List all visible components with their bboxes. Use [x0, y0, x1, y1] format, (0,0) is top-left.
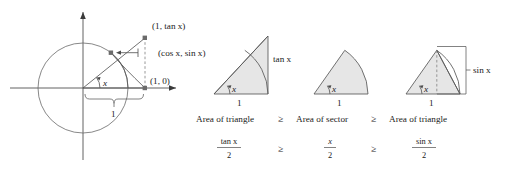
caption-sector: Area of sector: [296, 114, 348, 124]
triangle-tan-side-label: tan x: [273, 54, 292, 64]
unit-circle-diagram: (1, tan x) (cos x, sin x) (1, 0) x 1: [10, 12, 205, 160]
cos-sin-pointer: [116, 49, 138, 58]
triangle-sin-base-label: 1: [429, 98, 434, 108]
fraction-sin-denominator: 2: [422, 151, 426, 160]
relation-operator-2: ≥: [371, 114, 376, 124]
relation-operator-1: ≥: [278, 114, 283, 124]
point-unit: [143, 86, 147, 90]
angle-arc-large: [111, 53, 128, 88]
fraction-sin-numerator: sin x: [416, 137, 433, 146]
triangle-tan-base-label: 1: [237, 98, 242, 108]
fraction-tan: tan x 2: [217, 137, 241, 160]
figure-canvas: (1, tan x) (cos x, sin x) (1, 0) x 1 x 1…: [0, 0, 508, 172]
math-figure: (1, tan x) (cos x, sin x) (1, 0) x 1 x 1…: [0, 0, 508, 172]
fraction-tan-denominator: 2: [227, 151, 231, 160]
panel-triangle-tan: x 1 tan x: [214, 36, 292, 108]
x-axis-arrow-icon: [169, 85, 176, 91]
sector-base-label: 1: [337, 98, 342, 108]
y-axis-arrow-icon: [80, 12, 86, 19]
fraction-operator-1: ≥: [278, 144, 283, 154]
label-angle-x: x: [102, 78, 108, 88]
triangle-sin-side-label: sin x: [473, 65, 491, 75]
label-tan-point: (1, tan x): [152, 21, 185, 31]
sector-shape: [314, 50, 368, 94]
caption-row: Area of triangle ≥ Area of sector ≥ Area…: [196, 114, 447, 124]
point-cos-sin: [109, 51, 113, 55]
fraction-x-denominator: 2: [328, 151, 332, 160]
fraction-sin: sin x 2: [412, 137, 436, 160]
label-radius-one: 1: [111, 109, 116, 119]
fraction-tan-numerator: tan x: [221, 137, 238, 146]
label-unit-point: (1, 0): [150, 76, 170, 86]
fraction-x: x 2: [324, 137, 336, 160]
point-tan: [143, 36, 147, 40]
caption-triangle-sin: Area of triangle: [389, 114, 447, 124]
fraction-row: tan x 2 ≥ x 2 ≥ sin x 2: [217, 137, 436, 160]
triangle-sin-shape: [406, 50, 460, 94]
caption-triangle-tan: Area of triangle: [196, 114, 254, 124]
panel-triangle-sin: x 1 sin x: [406, 47, 491, 109]
fraction-operator-2: ≥: [371, 144, 376, 154]
radius-brace: [85, 94, 144, 107]
label-cos-sin-point: (cos x, sin x): [158, 48, 205, 58]
panel-sector: x 1: [314, 50, 368, 108]
terminal-ray: [83, 38, 145, 88]
fraction-x-numerator: x: [327, 137, 332, 146]
